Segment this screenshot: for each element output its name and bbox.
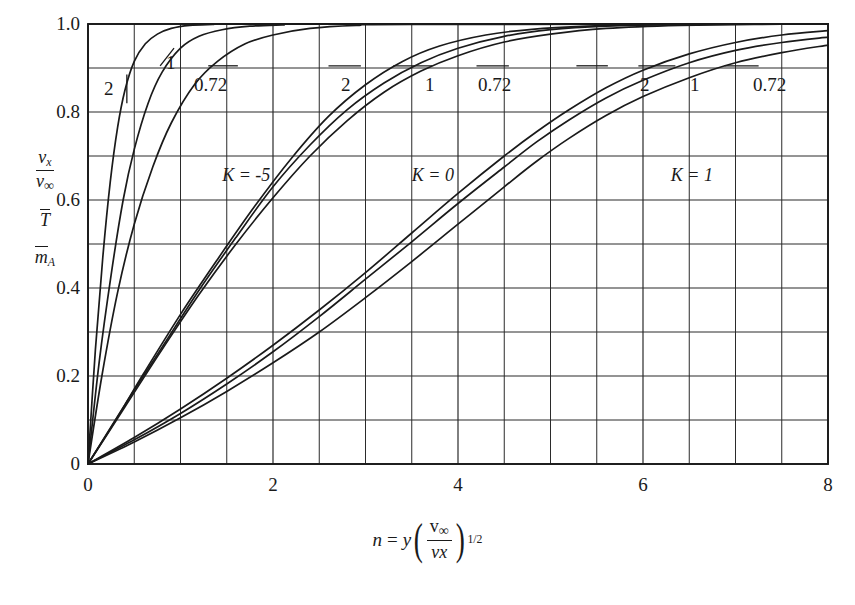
x-axis-title-fraction: v∞ vx: [427, 516, 452, 563]
x-tick-label-2: 4: [438, 474, 478, 496]
y-tick-label-4: 0.8: [56, 101, 80, 123]
x-axis-title: n = y ( v∞ vx ) 1/2: [0, 516, 855, 563]
curve-label-K-5-Pr1: 1: [166, 52, 176, 74]
figure-container: 00.20.40.60.81.0 02468 210.72210.72210.7…: [0, 0, 855, 605]
x-tick-label-1: 2: [253, 474, 293, 496]
k-group-label-0: K = 0: [412, 165, 454, 186]
open-paren: (: [414, 522, 423, 558]
k-group-label-1: K = 1: [671, 165, 713, 186]
y-axis-title-mass-fraction: mA: [14, 246, 76, 269]
velocity-ratio-numerator: vx: [36, 148, 54, 171]
velocity-ratio-fraction: vx v∞: [36, 148, 54, 192]
mass-fraction-symbol: m: [35, 246, 48, 266]
y-tick-label-1: 0.2: [56, 365, 80, 387]
y-tick-label-0: 0: [71, 453, 81, 475]
x-axis-title-equals: =: [382, 529, 403, 551]
x-axis-fraction-numerator: v∞: [427, 516, 452, 541]
y-axis-title-temperature: T: [14, 209, 76, 229]
y-tick-label-5: 1.0: [56, 13, 80, 35]
y-axis-title: vx v∞ T mA: [14, 148, 76, 286]
velocity-ratio-denominator: v∞: [36, 171, 54, 192]
mass-fraction-subscript: A: [48, 255, 55, 269]
curve-label-K1-Pr0.72: 0.72: [753, 74, 786, 96]
x-tick-label-4: 8: [808, 474, 848, 496]
x-tick-label-0: 0: [68, 474, 108, 496]
curve-label-K0-Pr1: 1: [425, 74, 435, 96]
k-group-label-neg5: K = -5: [222, 165, 270, 186]
curve-label-K0-Pr0.72: 0.72: [478, 74, 511, 96]
x-axis-title-n: n: [372, 529, 382, 551]
x-tick-label-3: 6: [623, 474, 663, 496]
temperature-symbol: T: [40, 209, 50, 229]
close-paren: ): [456, 522, 465, 558]
x-axis-title-y: y: [403, 529, 411, 551]
x-axis-title-exponent: 1/2: [467, 533, 482, 547]
curve-label-K0-Pr2: 2: [341, 74, 351, 96]
curve-label-K1-Pr1: 1: [690, 74, 700, 96]
curve-label-K1-Pr2: 2: [640, 74, 650, 96]
curve-label-K-5-Pr0.72: 0.72: [194, 74, 227, 96]
y-axis-title-velocity-ratio: vx v∞: [14, 148, 76, 192]
x-axis-fraction-denominator: vx: [427, 541, 452, 563]
curve-label-K-5-Pr2: 2: [104, 78, 114, 100]
